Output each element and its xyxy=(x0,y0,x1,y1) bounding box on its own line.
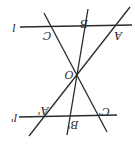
label-C: C xyxy=(42,29,51,42)
geometry-diagram: l C B A O l' A' B' C' xyxy=(0,0,135,148)
label-C-prime: C' xyxy=(98,105,109,118)
label-B-prime: B' xyxy=(67,118,79,131)
label-l-prime: l' xyxy=(11,111,18,124)
label-A-prime: A' xyxy=(38,104,50,117)
lines xyxy=(19,7,132,136)
label-O: O xyxy=(64,68,73,81)
label-A: A xyxy=(114,29,123,42)
labels: l C B A O l' A' B' C' xyxy=(11,17,123,131)
label-l: l xyxy=(12,21,16,34)
label-B: B xyxy=(80,17,89,30)
line-CC-prime xyxy=(44,13,107,132)
